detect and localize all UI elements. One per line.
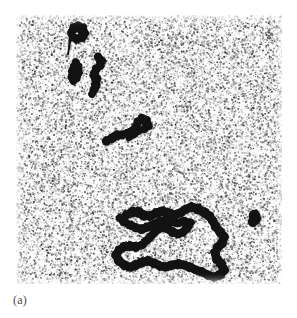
panel-caption-label: (a) (13, 293, 27, 307)
cluster-layer (16, 15, 282, 284)
micrograph-panel (16, 15, 282, 284)
figure-root: (a) (0, 0, 297, 318)
